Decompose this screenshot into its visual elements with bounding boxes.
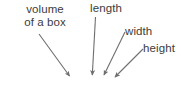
label-length: length <box>90 2 122 15</box>
formula-operator: = <box>89 94 105 96</box>
label-volume-line-2: of a box <box>9 16 81 29</box>
formula-variable: v <box>81 94 89 96</box>
label-volume-line-1: volume <box>9 3 81 16</box>
label-volume-of-a-box: volume of a box <box>9 3 81 29</box>
arrow-length <box>92 17 95 75</box>
arrow-volume <box>39 34 70 76</box>
volume-formula-diagram: volume of a box length width height v=lw… <box>0 0 191 96</box>
formula-expression: v=lwh <box>62 78 131 96</box>
formula-right-side: lwh <box>105 94 131 96</box>
label-width: width <box>125 25 152 38</box>
arrow-height <box>115 49 143 77</box>
label-height: height <box>143 42 175 55</box>
arrow-width <box>104 32 125 75</box>
